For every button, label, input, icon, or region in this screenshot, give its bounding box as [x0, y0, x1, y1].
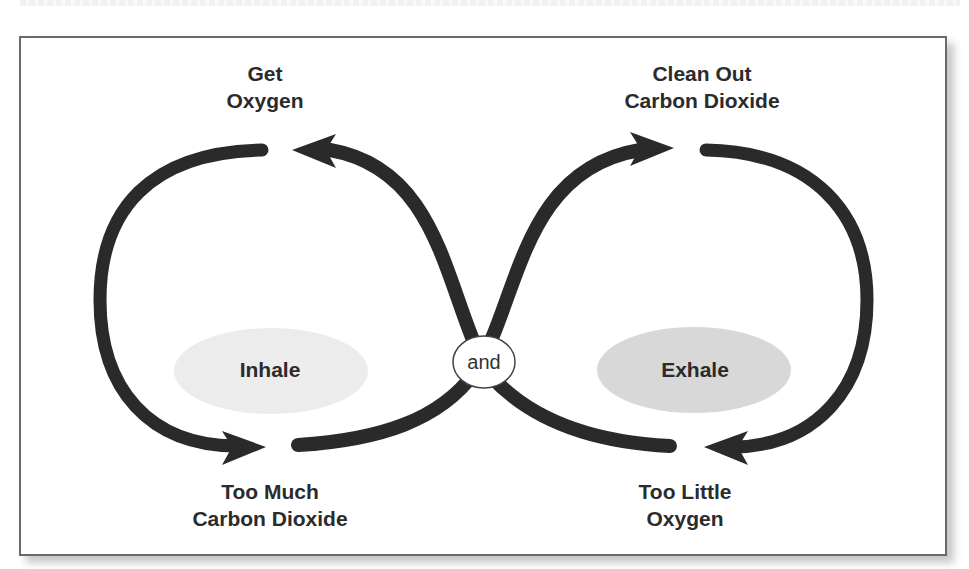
label-clean-out-co2: Clean Out Carbon Dioxide [624, 60, 779, 114]
cross-arrow-to-clean-out [298, 150, 640, 445]
label-too-much-co2: Too Much Carbon Dioxide [192, 478, 347, 532]
label-line: Carbon Dioxide [192, 505, 347, 532]
and-label: and [467, 351, 500, 374]
breathing-cycle-diagram [0, 0, 969, 569]
label-line: Too Little [639, 478, 732, 505]
label-line: Carbon Dioxide [624, 87, 779, 114]
label-get-oxygen: Get Oxygen [226, 60, 303, 114]
label-line: Get [226, 60, 303, 87]
label-line: Oxygen [226, 87, 303, 114]
label-line: Oxygen [639, 505, 732, 532]
label-too-little-o2: Too Little Oxygen [639, 478, 732, 532]
inhale-label: Inhale [240, 358, 301, 382]
exhale-label: Exhale [661, 358, 729, 382]
label-line: Clean Out [624, 60, 779, 87]
label-line: Too Much [192, 478, 347, 505]
